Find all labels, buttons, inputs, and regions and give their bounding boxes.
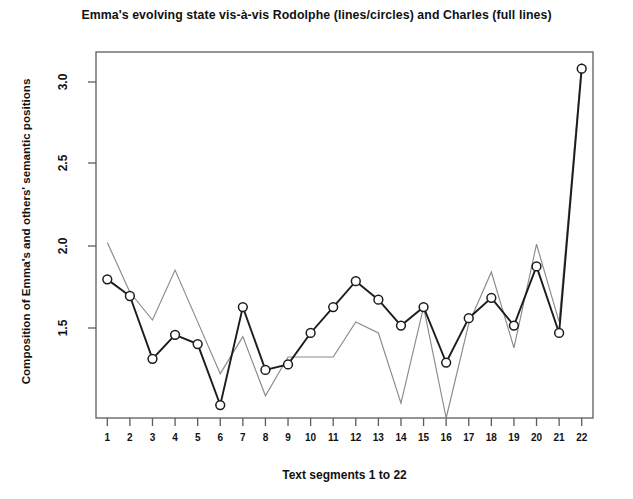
data-point-marker bbox=[577, 64, 586, 73]
x-tick-label-5: 5 bbox=[188, 432, 208, 443]
x-tick-label-20: 20 bbox=[527, 432, 547, 443]
data-point-marker bbox=[510, 321, 519, 330]
data-point-marker bbox=[374, 295, 383, 304]
data-point-marker bbox=[464, 314, 473, 323]
x-axis-ticks bbox=[107, 418, 581, 426]
data-point-marker bbox=[261, 366, 270, 375]
data-point-marker bbox=[532, 262, 541, 271]
series-markers-rodolphe bbox=[103, 64, 586, 409]
data-point-marker bbox=[419, 303, 428, 312]
x-tick-label-3: 3 bbox=[142, 432, 162, 443]
x-tick-label-21: 21 bbox=[549, 432, 569, 443]
series-line-charles bbox=[107, 63, 581, 418]
data-point-marker bbox=[442, 358, 451, 367]
x-tick-label-22: 22 bbox=[572, 432, 592, 443]
plot-frame bbox=[96, 52, 593, 418]
x-tick-label-19: 19 bbox=[504, 432, 524, 443]
x-tick-label-18: 18 bbox=[481, 432, 501, 443]
plot-area bbox=[0, 0, 633, 499]
data-point-marker bbox=[351, 277, 360, 286]
data-point-marker bbox=[487, 293, 496, 302]
x-tick-label-1: 1 bbox=[97, 432, 117, 443]
x-axis-label: Text segments 1 to 22 bbox=[96, 468, 593, 482]
data-point-marker bbox=[329, 303, 338, 312]
x-tick-label-13: 13 bbox=[368, 432, 388, 443]
y-axis-ticks bbox=[88, 82, 96, 328]
data-point-marker bbox=[103, 275, 112, 284]
x-tick-label-16: 16 bbox=[436, 432, 456, 443]
data-point-marker bbox=[125, 292, 134, 301]
data-point-marker bbox=[238, 303, 247, 312]
data-point-marker bbox=[555, 329, 564, 338]
chart-figure: Emma's evolving state vis-à-vis Rodolphe… bbox=[0, 0, 633, 499]
x-tick-label-4: 4 bbox=[165, 432, 185, 443]
x-tick-label-15: 15 bbox=[414, 432, 434, 443]
x-tick-label-2: 2 bbox=[120, 432, 140, 443]
data-point-marker bbox=[148, 354, 157, 363]
data-point-marker bbox=[306, 329, 315, 338]
x-tick-label-11: 11 bbox=[323, 432, 343, 443]
x-tick-label-6: 6 bbox=[210, 432, 230, 443]
data-point-marker bbox=[216, 401, 225, 410]
x-tick-label-12: 12 bbox=[346, 432, 366, 443]
x-tick-label-7: 7 bbox=[233, 432, 253, 443]
x-tick-label-10: 10 bbox=[301, 432, 321, 443]
data-point-marker bbox=[284, 360, 293, 369]
series-line-rodolphe bbox=[107, 69, 581, 405]
data-point-marker bbox=[171, 330, 180, 339]
x-tick-label-17: 17 bbox=[459, 432, 479, 443]
x-tick-label-9: 9 bbox=[278, 432, 298, 443]
data-point-marker bbox=[397, 321, 406, 330]
data-point-marker bbox=[193, 340, 202, 349]
x-tick-label-14: 14 bbox=[391, 432, 411, 443]
x-tick-label-8: 8 bbox=[255, 432, 275, 443]
